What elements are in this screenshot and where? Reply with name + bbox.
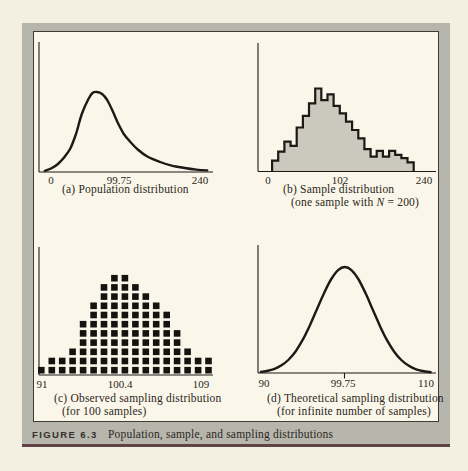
panel-b-caption-line2: (one sample with N = 200) xyxy=(291,196,419,208)
panel-a-caption: (a) Population distribution xyxy=(62,183,189,195)
panel-c-tick-max: 109 xyxy=(193,378,210,390)
figure-6-3: 0 99.75 240 0 102 240 91 100.4 109 90 99… xyxy=(0,0,468,471)
panel-d-curve xyxy=(261,267,431,372)
panel-c-tick-min: 91 xyxy=(37,378,48,390)
panel-b-histogram xyxy=(272,89,414,172)
panel-c-axes xyxy=(39,247,213,375)
figure-number-label: FIGURE 6.3 xyxy=(32,429,98,440)
panel-a-axes xyxy=(39,42,213,172)
panel-a-tick-max: 240 xyxy=(192,174,209,186)
panel-b-caption-line1: (b) Sample distribution xyxy=(283,183,394,195)
panel-b-tick-0: 0 xyxy=(265,174,271,186)
panel-d-tick-mid: 99.75 xyxy=(331,377,356,389)
panel-a-curve xyxy=(45,92,207,171)
panel-c-dotplot xyxy=(38,275,212,374)
panel-c-caption-line2: (for 100 samples) xyxy=(62,405,147,417)
panel-d-axes xyxy=(258,245,436,373)
panel-a-tick-0: 0 xyxy=(48,174,54,186)
panel-d-tick-min: 90 xyxy=(259,377,270,389)
panel-d-caption-line1: (d) Theoretical sampling distribution xyxy=(267,392,444,404)
panel-c-caption-line1: (c) Observed sampling distribution xyxy=(54,392,221,404)
panel-d-caption-line2: (for infinite number of samples) xyxy=(277,405,431,417)
figure-caption-text: Population, sample, and sampling distrib… xyxy=(108,428,333,440)
panel-b-caption-line2-pre: (one sample with xyxy=(291,196,376,208)
panel-b-caption-line2-post: = 200) xyxy=(384,196,419,208)
panel-d-tick-max: 110 xyxy=(418,377,434,389)
panel-a-plot xyxy=(45,92,207,171)
panel-d-plot xyxy=(261,267,431,372)
panel-c-tick-mid: 100.4 xyxy=(108,378,133,390)
panel-b-tick-max: 240 xyxy=(416,174,433,186)
